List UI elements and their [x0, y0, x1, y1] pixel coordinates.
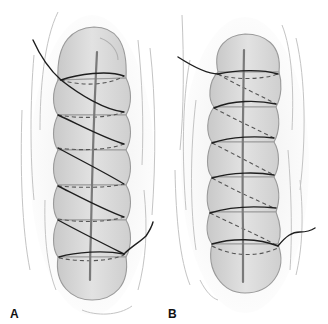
suture-illustration [0, 0, 328, 324]
panel-label-a: A [10, 307, 19, 321]
panel-a [21, 12, 155, 315]
panel-b [175, 15, 315, 313]
panel-label-b: B [168, 307, 177, 321]
